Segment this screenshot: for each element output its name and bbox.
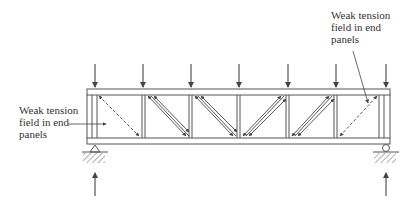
weak-tension-field (340, 96, 377, 136)
left-annotation-line-1: Weak tension (19, 104, 78, 116)
applied-loads (95, 64, 386, 87)
left-annotation: Weak tension field in end panels (19, 104, 78, 140)
ground-hatch-icon (83, 153, 105, 163)
right-roller-support (373, 145, 399, 164)
right-annotation-line-3: panels (331, 33, 390, 45)
weak-tension-field (99, 96, 139, 136)
girder (87, 89, 390, 144)
left-annotation-line-2: field in end (19, 116, 78, 128)
pin-support-icon (90, 145, 100, 152)
ground-hatch-icon (374, 153, 396, 163)
top-flange (87, 89, 390, 95)
reactions (95, 173, 386, 196)
right-annotation-line-1: Weak tension (331, 9, 390, 21)
left-annotation-line-3: panels (19, 128, 78, 140)
right-annotation: Weak tension field in end panels (331, 9, 390, 45)
left-pin-support (82, 145, 108, 163)
tension-fields (99, 96, 377, 136)
right-annotation-line-2: field in end (331, 21, 390, 33)
bottom-flange (87, 138, 390, 144)
roller-support-icon (383, 145, 390, 152)
